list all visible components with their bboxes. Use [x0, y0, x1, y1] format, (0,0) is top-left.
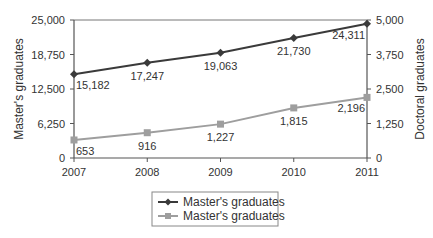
x-tick-label: 2007	[62, 166, 86, 178]
y-tick-label: 0	[59, 152, 65, 164]
line-chart: 06,25012,50018,75025,00001,2502,5003,750…	[0, 0, 433, 238]
square-marker	[71, 136, 78, 143]
square-marker	[217, 121, 224, 128]
series-layer: 15,18217,24719,06321,73024,3116539161,22…	[70, 20, 371, 157]
data-label: 24,311	[332, 29, 365, 41]
square-marker	[364, 94, 371, 101]
diamond-marker	[143, 59, 151, 67]
x-tick-label: 2011	[355, 166, 379, 178]
data-label: 916	[138, 140, 156, 152]
y2-axis-title: Doctoral graduates	[413, 38, 427, 139]
data-label: 15,182	[76, 79, 110, 91]
legend-label: Master's graduates	[183, 195, 285, 209]
legend-label: Master's graduates	[183, 209, 285, 223]
x-tick-label: 2009	[208, 166, 232, 178]
y2-tick-label: 3,750	[376, 49, 404, 61]
y-tick-label: 6,250	[37, 118, 65, 130]
y-tick-label: 18,750	[31, 49, 65, 61]
square-marker	[290, 104, 297, 111]
data-label: 2,196	[337, 102, 365, 114]
x-tick-label: 2010	[282, 166, 306, 178]
data-label: 1,227	[207, 131, 235, 143]
data-label: 21,730	[277, 45, 311, 57]
data-label: 1,815	[280, 115, 308, 127]
data-label: 17,247	[130, 70, 164, 82]
diamond-marker	[217, 49, 225, 57]
x-tick-label: 2008	[135, 166, 159, 178]
y2-tick-label: 2,500	[376, 83, 404, 95]
y-axis-title: Master's graduates	[12, 38, 26, 140]
y2-tick-label: 5,000	[376, 14, 404, 26]
y-tick-label: 12,500	[31, 83, 65, 95]
diamond-marker	[363, 20, 371, 28]
y-tick-label: 25,000	[31, 14, 65, 26]
legend-square-icon	[165, 213, 171, 219]
y2-tick-label: 1,250	[376, 118, 404, 130]
data-label: 19,063	[204, 60, 238, 72]
diamond-marker	[290, 34, 298, 42]
square-marker	[144, 129, 151, 136]
legend: Master's graduatesMaster's graduates	[152, 192, 285, 226]
diamond-marker	[70, 70, 78, 78]
y2-tick-label: 0	[376, 152, 382, 164]
data-label: 653	[76, 145, 94, 157]
